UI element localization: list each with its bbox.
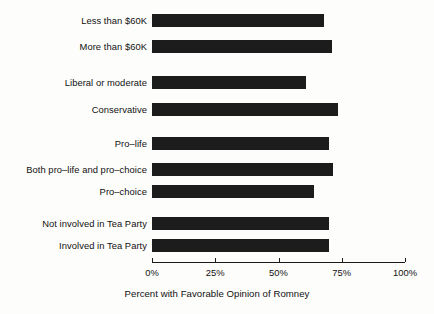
x-axis-tick-label: 75%: [317, 267, 367, 278]
x-axis-tick-label: 100%: [380, 267, 430, 278]
bar-category-label: Pro–life: [0, 136, 147, 151]
bar-row: Pro–life: [0, 137, 434, 150]
x-axis-tick: [405, 258, 406, 262]
bar-value-rect: [152, 76, 306, 89]
bar-row: Less than $60K: [0, 14, 434, 27]
bar-row: Liberal or moderate: [0, 76, 434, 89]
bar-category-label: Not involved in Tea Party: [0, 216, 147, 231]
bar-row: Involved in Tea Party: [0, 239, 434, 252]
bar-value-rect: [152, 185, 314, 198]
bar-value-rect: [152, 40, 332, 53]
bar-row: Conservative: [0, 103, 434, 116]
bar-category-label: More than $60K: [0, 39, 147, 54]
bar-value-rect: [152, 14, 324, 27]
bar-value-rect: [152, 239, 329, 252]
bar-value-rect: [152, 137, 329, 150]
bar-category-label: Less than $60K: [0, 13, 147, 28]
x-axis-tick: [279, 258, 280, 262]
bar-value-rect: [152, 163, 333, 176]
x-axis-tick: [342, 258, 343, 262]
bar-row: More than $60K: [0, 40, 434, 53]
x-axis-tick: [152, 258, 153, 262]
bar-value-rect: [152, 103, 338, 116]
bar-category-label: Pro–choice: [0, 184, 147, 199]
bar-row: Not involved in Tea Party: [0, 217, 434, 230]
bar-row: Pro–choice: [0, 185, 434, 198]
bar-value-rect: [152, 217, 329, 230]
bar-chart: Less than $60K More than $60K Liberal or…: [0, 0, 434, 314]
x-axis-line: [152, 262, 405, 263]
x-axis-title: Percent with Favorable Opinion of Romney: [0, 288, 434, 299]
bar-category-label: Both pro–life and pro–choice: [0, 162, 147, 177]
bar-row: Both pro–life and pro–choice: [0, 163, 434, 176]
x-axis-tick-label: 0%: [127, 267, 177, 278]
bar-category-label: Conservative: [0, 102, 147, 117]
x-axis-tick: [215, 258, 216, 262]
bar-category-label: Involved in Tea Party: [0, 238, 147, 253]
x-axis-tick-label: 50%: [254, 267, 304, 278]
x-axis-tick-label: 25%: [190, 267, 240, 278]
bar-category-label: Liberal or moderate: [0, 75, 147, 90]
